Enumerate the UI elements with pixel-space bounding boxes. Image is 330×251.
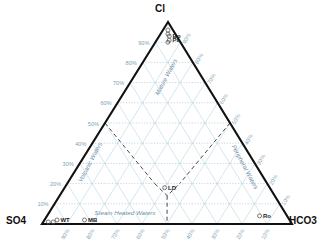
tick-left-50: 50% [88, 121, 99, 127]
tick-left-80: 80% [126, 60, 137, 66]
data-point-label-MB: MB [88, 217, 98, 223]
tick-bottom-80: 80% [85, 228, 96, 241]
tick-left-70: 70% [113, 80, 124, 86]
field-label-0: Mature Waters [153, 57, 178, 96]
data-point-label-LD: LD [168, 185, 177, 191]
tick-bottom-60: 60% [135, 228, 146, 241]
data-point-label-Pu: Pu [173, 37, 181, 43]
tick-left-10: 10% [37, 201, 48, 207]
tick-right-20: 20% [268, 173, 279, 186]
tick-bottom-10: 10% [260, 228, 271, 241]
ternary-plot-svg: 10%20%30%40%50%60%70%80%90%10%20%30%40%5… [0, 0, 330, 251]
ternary-diagram: 10%20%30%40%50%60%70%80%90%10%20%30%40%5… [0, 0, 330, 251]
field-labels: Mature WatersPeripheral WatersVolcanic W… [76, 57, 260, 216]
tick-left-60: 60% [100, 100, 111, 106]
data-point [166, 28, 170, 32]
data-point [55, 218, 59, 222]
tick-bottom-20: 20% [235, 228, 246, 241]
tick-left-30: 30% [63, 161, 74, 167]
data-point [258, 214, 262, 218]
tick-right-70: 70% [206, 72, 217, 85]
tick-bottom-90: 90% [60, 228, 71, 241]
data-point-label-WT: WT [60, 217, 70, 223]
tick-left-40: 40% [75, 141, 86, 147]
tick-bottom-30: 30% [210, 228, 221, 241]
data-point [83, 218, 87, 222]
field-label-3: Steam Heated Waters [95, 209, 156, 216]
corner-label-so4: SO4 [6, 215, 26, 226]
tick-right-50: 50% [231, 113, 242, 126]
corner-label-hco3: HCO3 [289, 215, 317, 226]
tick-bottom-50: 50% [160, 228, 171, 241]
data-points: BpPuLDRoMBWT [46, 28, 271, 224]
tick-right-60: 60% [218, 93, 229, 106]
tick-right-80: 80% [193, 52, 204, 65]
tick-right-40: 40% [243, 133, 254, 146]
data-point-label-Ro: Ro [263, 213, 271, 219]
tick-right-30: 30% [255, 153, 266, 166]
tick-left-20: 20% [50, 181, 61, 187]
field-label-1: Peripheral Waters [231, 143, 260, 190]
tick-right-90: 90% [181, 32, 192, 45]
tick-right-10: 10% [280, 194, 291, 207]
tick-bottom-40: 40% [185, 228, 196, 241]
axis-tick-labels: 10%20%30%40%50%60%70%80%90%10%20%30%40%5… [37, 32, 291, 240]
corner-label-cl: Cl [155, 3, 165, 14]
tick-bottom-70: 70% [110, 228, 121, 241]
tick-left-90: 90% [138, 40, 149, 46]
